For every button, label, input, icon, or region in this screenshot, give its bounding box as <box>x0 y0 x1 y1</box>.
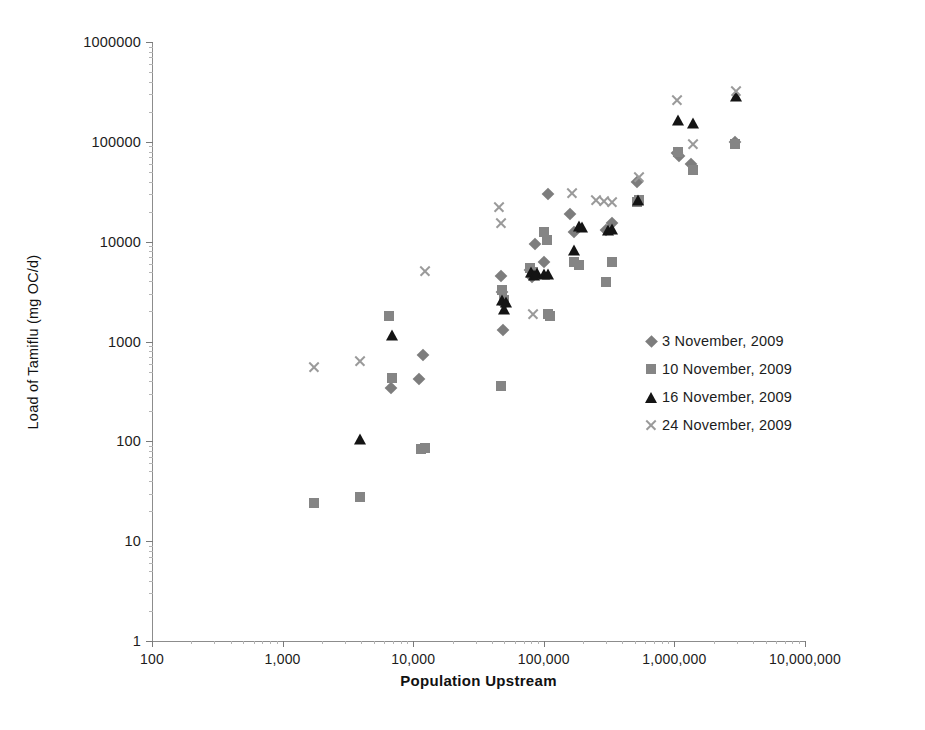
x-tick-minor <box>361 641 362 644</box>
x-tick-minor <box>714 641 715 644</box>
data-point <box>412 373 425 386</box>
x-tick-minor <box>737 641 738 644</box>
data-point <box>606 196 618 208</box>
data-point <box>605 216 618 229</box>
x-tick-minor <box>538 641 539 644</box>
data-point <box>542 269 554 280</box>
data-point <box>632 197 642 207</box>
y-tick-minor <box>149 264 153 265</box>
data-point <box>545 311 555 321</box>
x-tick-minor <box>662 641 663 644</box>
data-point <box>688 165 698 175</box>
y-tick <box>146 441 153 442</box>
legend-item[interactable]: 24 November, 2009 <box>640 411 860 439</box>
data-point <box>539 227 549 237</box>
diamond-marker-icon <box>645 335 658 348</box>
y-tick-minor <box>149 294 153 295</box>
y-tick-minor <box>149 457 153 458</box>
data-point <box>671 94 683 106</box>
data-point <box>634 195 644 205</box>
y-tick <box>146 42 153 43</box>
x-tick-minor <box>766 641 767 644</box>
y-tick-minor <box>149 164 153 165</box>
data-point <box>542 235 552 245</box>
data-point <box>542 188 555 201</box>
legend-item[interactable]: 16 November, 2009 <box>640 383 860 411</box>
legend-item[interactable]: 10 November, 2009 <box>640 355 860 383</box>
data-point <box>601 277 611 287</box>
y-tick-minor <box>149 251 153 252</box>
data-point <box>730 139 740 149</box>
data-point <box>529 238 542 251</box>
data-point <box>568 226 581 239</box>
y-tick-label: 100 <box>116 433 141 449</box>
y-tick-minor <box>149 351 153 352</box>
x-tick-minor <box>476 641 477 644</box>
data-point <box>528 267 538 277</box>
legend-item-label: 10 November, 2009 <box>662 361 792 377</box>
legend-item-label: 24 November, 2009 <box>662 417 792 433</box>
x-tick-minor <box>453 641 454 644</box>
x-axis-title: Population Upstream <box>152 672 805 689</box>
cross-marker-icon <box>645 419 657 431</box>
legend-marker-square <box>640 361 662 377</box>
y-tick <box>146 242 153 243</box>
y-tick-minor <box>149 494 153 495</box>
y-tick-minor <box>149 64 153 65</box>
data-point <box>495 270 508 283</box>
x-tick-minor <box>243 641 244 644</box>
legend-marker-cross <box>640 417 662 433</box>
y-tick-minor <box>149 463 153 464</box>
y-tick-minor <box>149 257 153 258</box>
x-tick-label: 1,000,000 <box>642 651 706 667</box>
y-tick <box>146 342 153 343</box>
data-point <box>416 444 426 454</box>
y-tick-minor <box>149 281 153 282</box>
data-point <box>576 222 588 233</box>
y-tick-minor <box>149 94 153 95</box>
data-point <box>525 266 537 277</box>
y-tick-minor <box>149 47 153 48</box>
data-point <box>537 255 550 268</box>
data-point <box>687 138 699 150</box>
data-point <box>354 355 366 367</box>
data-point <box>631 175 644 188</box>
legend-item[interactable]: 3 November, 2009 <box>640 327 860 355</box>
data-point <box>730 90 742 101</box>
x-tick-minor <box>622 641 623 644</box>
data-point <box>495 217 507 229</box>
data-point <box>730 85 742 97</box>
x-tick-minor <box>254 641 255 644</box>
x-tick-minor <box>668 641 669 644</box>
square-marker-icon <box>646 364 656 374</box>
y-tick-minor <box>149 381 153 382</box>
x-tick-minor <box>785 641 786 644</box>
y-tick-minor <box>149 172 153 173</box>
y-tick-label: 1 <box>133 633 141 649</box>
data-point <box>354 434 366 445</box>
y-tick-minor <box>149 551 153 552</box>
y-tick-minor <box>149 546 153 547</box>
x-tick-label: 100 <box>140 651 164 667</box>
x-tick-minor <box>345 641 346 644</box>
x-tick <box>674 641 675 647</box>
x-tick-minor <box>606 641 607 644</box>
y-tick-minor <box>149 57 153 58</box>
x-tick-minor <box>504 641 505 644</box>
x-tick-label: 1,000 <box>265 651 301 667</box>
y-axis-title-text: Load of Tamiflu (mg OC/d) <box>25 254 41 429</box>
y-tick-label: 1000000 <box>83 34 141 50</box>
data-point <box>525 271 538 284</box>
data-point <box>528 270 540 281</box>
data-point <box>602 225 614 236</box>
x-tick-minor <box>407 641 408 644</box>
y-tick-minor <box>149 82 153 83</box>
x-tick-minor <box>374 641 375 644</box>
data-point <box>598 195 610 207</box>
x-tick-minor <box>393 641 394 644</box>
legend-marker-triangle <box>640 389 662 405</box>
data-point <box>384 311 394 321</box>
x-tick-minor <box>753 641 754 644</box>
x-tick <box>805 641 806 647</box>
y-tick-minor <box>149 593 153 594</box>
